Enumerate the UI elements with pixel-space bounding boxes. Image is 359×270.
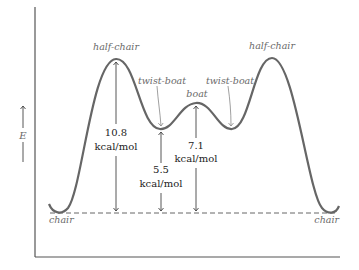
chair-left-label: chair [49, 214, 75, 225]
boat-energy-value: 7.1 [188, 140, 204, 151]
energy-diagram: E 10.8 kcal/mol 5.5 kcal/mol 7.1 kcal/mo… [0, 0, 359, 270]
twist-boat-left-label: twist-boat [138, 75, 186, 86]
boat-label: boat [186, 88, 207, 99]
half-chair-energy-value: 10.8 [105, 127, 127, 138]
half-chair-right-label: half-chair [249, 40, 296, 51]
half-chair-energy-unit: kcal/mol [95, 141, 138, 152]
half-chair-left-label: half-chair [93, 41, 140, 52]
twist-boat-right-label: twist-boat [206, 75, 254, 86]
boat-energy-unit: kcal/mol [175, 153, 218, 164]
twist-boat-energy-unit: kcal/mol [140, 178, 183, 189]
energy-curve [49, 58, 339, 213]
twist-boat-left-pointer [157, 86, 161, 126]
energy-axis-label: E [18, 130, 27, 141]
chair-right-label: chair [314, 214, 340, 225]
twist-boat-energy-value: 5.5 [153, 164, 169, 175]
twist-boat-right-pointer [228, 86, 231, 126]
